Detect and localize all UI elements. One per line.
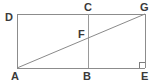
vertex-label-C: C [84,2,92,13]
right-angle-marker-icon [139,62,145,68]
vertex-label-B: B [83,71,91,82]
vertex-label-F: F [78,29,85,40]
vertex-label-A: A [11,71,19,82]
geometry-figure: D C G F A B E [0,0,161,83]
vertex-label-D: D [5,12,13,23]
figure-canvas [0,0,161,83]
vertex-label-G: G [140,2,149,13]
segment-diagonal-AG [17,14,145,68]
vertex-label-E: E [141,71,148,82]
